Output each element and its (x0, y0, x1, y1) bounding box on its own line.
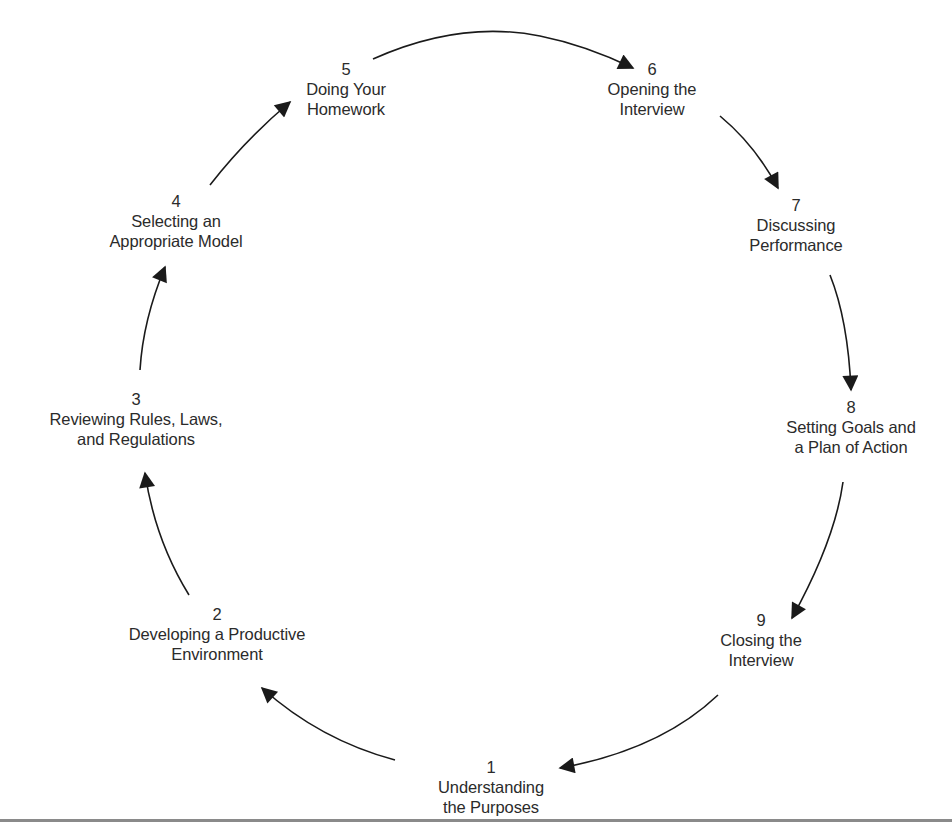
step-4: 4 Selecting an Appropriate Model (109, 191, 242, 251)
step-label-line-1: Reviewing Rules, Laws, (50, 409, 223, 429)
step-label-line-1: Closing the (720, 630, 801, 650)
step-label-line-2: Appropriate Model (109, 231, 242, 251)
step-number: 8 (786, 397, 915, 417)
step-number: 2 (129, 604, 306, 624)
step-number: 7 (749, 195, 842, 215)
step-1: 1 Understanding the Purposes (438, 757, 544, 817)
step-label-line-2: Homework (306, 99, 386, 119)
arrow-6-to-7 (720, 116, 778, 188)
step-number: 6 (608, 59, 697, 79)
arrow-9-to-1 (560, 695, 718, 768)
step-label-line-1: Understanding (438, 777, 544, 797)
step-7: 7 Discussing Performance (749, 195, 842, 255)
step-label-line-1: Selecting an (109, 211, 242, 231)
step-label-line-2: Interview (608, 99, 697, 119)
step-number: 9 (720, 610, 801, 630)
step-label-line-1: Doing Your (306, 79, 386, 99)
step-label-line-2: a Plan of Action (786, 437, 915, 457)
arrow-4-to-5 (210, 102, 290, 185)
arrow-5-to-6 (373, 31, 633, 68)
step-9: 9 Closing the Interview (720, 610, 801, 670)
step-label-line-1: Opening the (608, 79, 697, 99)
step-label-line-1: Setting Goals and (786, 417, 915, 437)
step-label-line-2: Environment (129, 644, 306, 664)
step-8: 8 Setting Goals and a Plan of Action (786, 397, 915, 457)
arrow-8-to-9 (792, 482, 843, 618)
step-label-line-1: Developing a Productive (129, 624, 306, 644)
step-number: 3 (50, 389, 223, 409)
step-3: 3 Reviewing Rules, Laws, and Regulations (50, 389, 223, 449)
step-number: 4 (109, 191, 242, 211)
step-label-line-2: Performance (749, 235, 842, 255)
arrow-1-to-2 (262, 688, 395, 760)
arrow-2-to-3 (145, 473, 189, 595)
step-2: 2 Developing a Productive Environment (129, 604, 306, 664)
step-label-line-1: Discussing (749, 215, 842, 235)
bottom-divider (0, 819, 952, 822)
step-number: 1 (438, 757, 544, 777)
arrow-3-to-4 (140, 267, 165, 370)
step-label-line-2: and Regulations (50, 429, 223, 449)
step-6: 6 Opening the Interview (608, 59, 697, 119)
step-label-line-2: the Purposes (438, 797, 544, 817)
step-5: 5 Doing Your Homework (306, 59, 386, 119)
arrow-7-to-8 (830, 275, 851, 390)
step-number: 5 (306, 59, 386, 79)
cycle-diagram: 5 Doing Your Homework 6 Opening the Inte… (0, 0, 952, 830)
step-label-line-2: Interview (720, 650, 801, 670)
